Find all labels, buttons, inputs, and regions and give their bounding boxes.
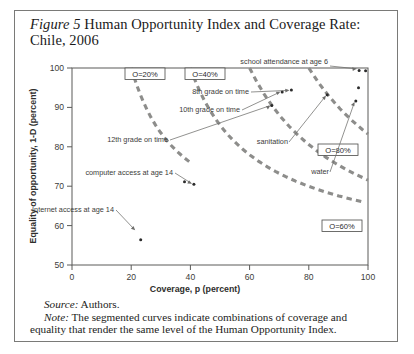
annotation-8th-grade: 8th grade on time xyxy=(192,87,249,96)
data-point xyxy=(192,183,195,186)
figure-footnotes: Source: Authors. Note: The segmented cur… xyxy=(30,298,382,336)
x-tick-20: 20 xyxy=(126,272,136,282)
x-tick-100: 100 xyxy=(361,272,376,282)
leader-arrow xyxy=(351,102,355,106)
data-point xyxy=(270,104,273,107)
y-tick-90: 90 xyxy=(54,102,64,112)
iso-label-40-text: O=40% xyxy=(192,70,218,79)
data-point xyxy=(183,180,186,183)
iso-label-60: O=60% xyxy=(322,220,362,232)
annotation-12th-grade: 12th grade on time xyxy=(107,135,168,144)
y-tick-70: 70 xyxy=(54,181,64,191)
iso-curve-60 xyxy=(250,68,368,180)
iso-curve-20 xyxy=(131,68,190,163)
annotation-10th-grade: 10th grade on time xyxy=(179,105,240,114)
note-label: Note: xyxy=(44,311,69,323)
annotation-sanitation: sanitation xyxy=(257,137,288,146)
data-point xyxy=(364,69,367,72)
data-point xyxy=(354,100,357,103)
leader-sanitation xyxy=(289,97,325,142)
data-point xyxy=(290,89,293,92)
y-axis-label: Equality of opportunity, 1-D (percent) xyxy=(28,89,38,244)
footnote-note: Note: The segmented curves indicate comb… xyxy=(30,311,382,336)
annotation-internet-access: Internet access at age 14 xyxy=(32,205,114,214)
leader-water xyxy=(330,104,354,173)
x-tick-80: 80 xyxy=(304,272,314,282)
y-tick-80: 80 xyxy=(54,142,64,152)
annotation-school-attendance: school attendance at age 6 xyxy=(240,57,328,66)
iso-label-20-text: O=20% xyxy=(132,70,158,79)
annotation-water: water xyxy=(310,167,329,176)
iso-label-80-text: O=80% xyxy=(325,146,351,155)
x-tick-40: 40 xyxy=(186,272,196,282)
x-tick-60: 60 xyxy=(245,272,255,282)
iso-label-20: O=20% xyxy=(125,68,165,80)
x-axis-ticks xyxy=(72,265,368,270)
annotation-computer-access: computer access at age 14 xyxy=(85,168,173,177)
iso-label-60-text: O=60% xyxy=(329,222,355,231)
leader-computer-access xyxy=(175,173,191,183)
source-label: Source: xyxy=(44,298,78,310)
y-tick-100: 100 xyxy=(50,63,65,73)
source-text: Authors. xyxy=(81,298,120,310)
y-tick-50: 50 xyxy=(54,260,64,270)
y-tick-60: 60 xyxy=(54,221,64,231)
footnote-source: Source: Authors. xyxy=(30,298,382,311)
leader-arrow xyxy=(266,106,271,110)
data-point xyxy=(326,93,329,96)
data-point xyxy=(357,86,360,89)
iso-label-40: O=40% xyxy=(185,68,225,80)
y-axis-tick-labels: 100 90 80 70 60 50 xyxy=(50,63,65,270)
leader-arrow xyxy=(285,89,289,93)
x-axis-tick-labels: 0 20 40 60 80 100 xyxy=(70,272,376,282)
note-text: The segmented curves indicate combinatio… xyxy=(30,311,347,336)
x-axis-label: Coverage, p (percent) xyxy=(150,284,241,294)
leader-internet-access xyxy=(116,210,134,229)
data-point xyxy=(139,238,142,241)
x-tick-0: 0 xyxy=(70,272,75,282)
y-axis-ticks xyxy=(67,68,72,265)
data-point xyxy=(358,69,361,72)
iso-curve-80 xyxy=(309,68,368,134)
